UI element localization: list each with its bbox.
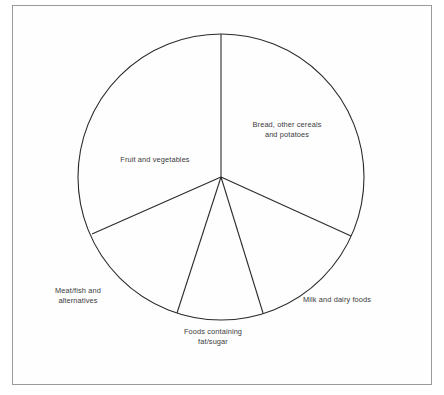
pie-slice-label-fruit: Fruit and vegetables xyxy=(100,155,210,165)
pie-chart: Bread, other cereals and potatoes Fruit … xyxy=(0,0,444,395)
pie-slice-label-fatsugar: Foods containing fat/sugar xyxy=(170,327,256,346)
pie-divider-fatsugar-meat xyxy=(177,177,221,313)
pie-divider-meat-fruit xyxy=(92,177,221,234)
pie-divider-bread-milk xyxy=(221,177,351,236)
pie-divider-milk-fatsugar xyxy=(221,177,263,313)
pie-slice-label-bread: Bread, other cereals and potatoes xyxy=(232,120,342,139)
page-root: Bread, other cereals and potatoes Fruit … xyxy=(0,0,444,395)
pie-slice-label-meat: Meat/fish and alternatives xyxy=(36,286,120,305)
pie-slice-label-milk: Milk and dairy foods xyxy=(303,295,399,305)
